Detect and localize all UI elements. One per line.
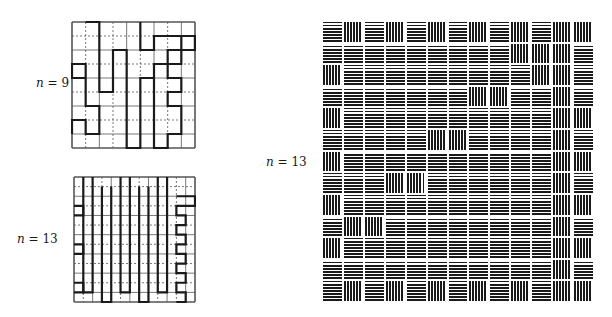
horizontal-block [468,194,489,216]
vertical-block [573,107,594,129]
vertical-block [552,151,573,173]
horizontal-block [364,21,385,43]
horizontal-block [406,216,427,238]
horizontal-block [427,107,448,129]
horizontal-block [343,129,364,151]
horizontal-block [510,64,531,86]
label-n9: n = 9 [36,76,69,90]
vertical-block [552,280,573,302]
horizontal-block [510,172,531,194]
horizontal-block [489,280,510,302]
horizontal-block [322,86,343,108]
horizontal-block [406,151,427,173]
vertical-block [552,129,573,151]
horizontal-block [406,259,427,281]
vertical-block [552,216,573,238]
horizontal-block [448,237,469,259]
horizontal-block [364,43,385,65]
vertical-block [427,280,448,302]
vertical-block [468,86,489,108]
label-n13-small: n = 13 [17,232,58,246]
horizontal-block [364,64,385,86]
horizontal-block [448,280,469,302]
figure-n13-small-grid [73,176,196,303]
horizontal-block [531,280,552,302]
horizontal-block [573,259,594,281]
horizontal-block [322,280,343,302]
label-n13-large: n = 13 [266,155,307,169]
label-variable: n [266,155,274,169]
horizontal-block [510,259,531,281]
vertical-block [385,280,406,302]
horizontal-block [510,107,531,129]
horizontal-block [468,216,489,238]
vertical-block [573,151,594,173]
horizontal-block [406,280,427,302]
vertical-block [510,280,531,302]
horizontal-block [385,86,406,108]
horizontal-block [427,172,448,194]
label-variable: n [17,232,25,246]
horizontal-block [322,216,343,238]
horizontal-block [322,172,343,194]
horizontal-block [406,194,427,216]
horizontal-block [489,129,510,151]
horizontal-block [531,216,552,238]
horizontal-block [573,43,594,65]
horizontal-block [448,151,469,173]
horizontal-block [385,129,406,151]
vertical-block [448,129,469,151]
horizontal-block [406,21,427,43]
horizontal-block [468,64,489,86]
vertical-block [573,21,594,43]
vertical-block [552,259,573,281]
horizontal-block [427,64,448,86]
horizontal-block [531,237,552,259]
vertical-block [573,237,594,259]
horizontal-block [364,172,385,194]
horizontal-block [448,64,469,86]
horizontal-block [573,216,594,238]
horizontal-block [343,86,364,108]
horizontal-block [427,151,448,173]
vertical-block [552,43,573,65]
horizontal-block [468,237,489,259]
vertical-block [552,64,573,86]
horizontal-block [448,21,469,43]
horizontal-block [468,151,489,173]
horizontal-block [364,194,385,216]
vertical-block [322,64,343,86]
horizontal-block [364,129,385,151]
label-value: = 9 [44,76,69,90]
horizontal-block [489,237,510,259]
horizontal-block [468,129,489,151]
horizontal-block [364,280,385,302]
horizontal-block [385,107,406,129]
horizontal-block [364,259,385,281]
vertical-block [552,237,573,259]
horizontal-block [468,43,489,65]
horizontal-block [343,194,364,216]
horizontal-block [406,86,427,108]
horizontal-block [427,43,448,65]
vertical-block [552,194,573,216]
vertical-block [552,21,573,43]
horizontal-block [510,194,531,216]
horizontal-block [468,259,489,281]
figure-n13-large-block-grid [322,21,594,302]
vertical-block [531,43,552,65]
horizontal-block [489,216,510,238]
vertical-block [531,64,552,86]
horizontal-block [510,237,531,259]
vertical-block [468,280,489,302]
horizontal-block [322,43,343,65]
horizontal-block [531,259,552,281]
horizontal-block [531,107,552,129]
horizontal-block [364,86,385,108]
vertical-block [573,280,594,302]
horizontal-block [468,172,489,194]
horizontal-block [489,43,510,65]
horizontal-block [385,194,406,216]
horizontal-block [489,151,510,173]
horizontal-block [448,194,469,216]
